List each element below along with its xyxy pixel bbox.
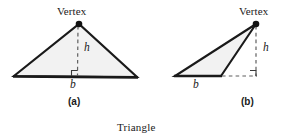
height-label-b: h xyxy=(263,42,269,54)
figure-drawing xyxy=(0,0,292,138)
triangle-a-shape xyxy=(14,24,137,77)
base-label-b: b xyxy=(193,79,199,91)
base-label-a: b xyxy=(70,79,76,91)
figure-caption: Triangle xyxy=(117,122,155,133)
panel-caption-b: (b) xyxy=(241,97,254,107)
panel-a-drawing xyxy=(13,21,138,78)
vertex-label-b: Vertex xyxy=(239,6,268,17)
panel-caption-a: (a) xyxy=(68,97,80,107)
triangle-b-vertex-dot xyxy=(253,21,260,28)
vertex-label-a: Vertex xyxy=(57,6,86,17)
triangle-figure: Vertex h b (a) Vertex h b (b) Triangle xyxy=(0,0,292,138)
triangle-b-right-angle-marker xyxy=(250,71,256,77)
triangle-a-vertex-dot xyxy=(76,21,83,28)
panel-b-drawing xyxy=(174,21,259,76)
height-label-a: h xyxy=(84,42,90,54)
triangle-b-shape xyxy=(175,24,256,76)
